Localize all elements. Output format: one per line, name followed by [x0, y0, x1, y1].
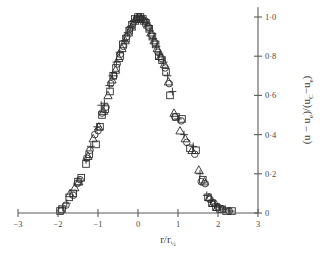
y-axis: 00·20·40·60·81·0 [254, 7, 277, 218]
x-tick-label: 0 [136, 219, 140, 229]
data-point-plus [203, 191, 211, 199]
x-tick-label: 2 [216, 219, 220, 229]
x-tick-label: −3 [13, 219, 22, 229]
y-tick-label: 0·6 [265, 90, 276, 100]
data-point-triangle [176, 127, 184, 134]
figure-container: −3−2−10123 00·20·40·60·81·0 r/r½ (u − ue… [0, 0, 327, 254]
svg-text:(u − ue)/(uC−ue): (u − ue)/(uC−ue) [300, 75, 315, 144]
y-tick-label: 0·4 [265, 130, 277, 140]
y-tick-label: 1·0 [265, 12, 276, 22]
data-point-plus [169, 88, 177, 96]
data-markers-layer [57, 13, 236, 215]
data-point-triangle [181, 134, 189, 141]
x-tick-label: 3 [256, 219, 260, 229]
data-point-plus [164, 72, 172, 80]
x-axis-title: r/r½ [160, 233, 176, 248]
data-point-triangle [170, 109, 178, 116]
y-axis-title: (u − ue)/(uC−ue) [300, 75, 315, 144]
scatter-plot: −3−2−10123 00·20·40·60·81·0 r/r½ (u − ue… [0, 0, 327, 254]
y-tick-label: 0·2 [265, 169, 276, 179]
x-tick-label: 1 [176, 219, 180, 229]
x-tick-label: −2 [53, 219, 62, 229]
x-tick-label: −1 [93, 219, 102, 229]
y-tick-label: 0·8 [265, 51, 276, 61]
svg-text:r/r½: r/r½ [160, 233, 176, 248]
data-point-triangle [195, 166, 203, 173]
y-tick-label: 0 [265, 208, 269, 218]
series-circle [58, 14, 233, 215]
